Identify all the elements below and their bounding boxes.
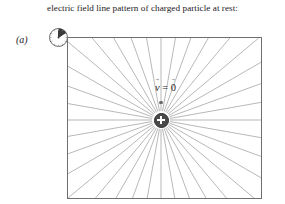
velocity-vector-symbol: v (155, 82, 161, 94)
clock-icon (48, 27, 69, 48)
positive-charge (154, 113, 169, 128)
figure-root: electric field line pattern of charged p… (0, 0, 285, 204)
velocity-label: v=0 (68, 82, 262, 94)
panel-label: (a) (16, 34, 28, 45)
plus-sign-vertical (160, 116, 162, 124)
origin-dot (159, 101, 162, 104)
equals-sign: = (160, 82, 170, 93)
figure-caption: electric field line pattern of charged p… (0, 2, 285, 14)
zero-vector-symbol: 0 (170, 82, 176, 94)
field-diagram-frame: v=0 (67, 37, 262, 199)
